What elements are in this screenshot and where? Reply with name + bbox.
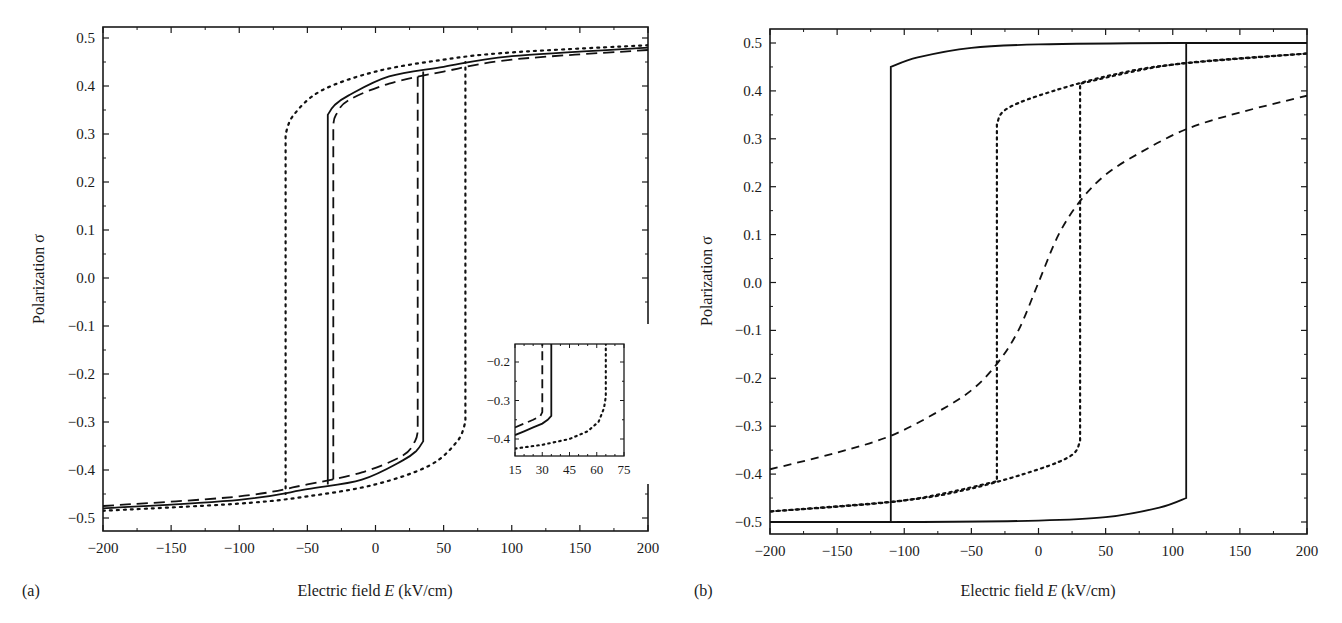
x-tick-label: 0	[1035, 543, 1043, 559]
panel-b-ylabel: Polarization σ	[698, 236, 715, 326]
x-tick-label: −100	[889, 543, 920, 559]
y-tick-label: 0.1	[743, 227, 762, 243]
y-tick-label: 0.5	[76, 30, 95, 46]
x-tick-label: 150	[1229, 543, 1252, 559]
y-tick-label: 0.2	[743, 179, 762, 195]
y-tick-label: 0.3	[743, 131, 762, 147]
y-tick-label: −0.4	[735, 466, 763, 482]
curve-solid	[770, 43, 1307, 522]
x-tick-label: 200	[1296, 543, 1319, 559]
x-tick-label: −50	[960, 543, 983, 559]
inset-x-tick-label: 30	[536, 462, 549, 477]
y-tick-label: 0.4	[743, 83, 762, 99]
x-tick-label: 50	[1098, 543, 1113, 559]
y-tick-label: 0.5	[743, 35, 762, 51]
x-tick-label: 0	[372, 540, 380, 556]
inset-x-tick-label: 75	[618, 462, 631, 477]
x-tick-label: −150	[822, 543, 853, 559]
curve-solid	[770, 43, 1307, 522]
x-tick-label: −200	[88, 540, 119, 556]
y-tick-label: 0.0	[76, 270, 95, 286]
x-tick-label: 100	[501, 540, 524, 556]
curve-dashed	[770, 96, 1307, 470]
inset-x-tick-label: 45	[563, 462, 576, 477]
y-tick-label: −0.5	[68, 510, 95, 526]
x-tick-label: 100	[1162, 543, 1185, 559]
y-tick-label: −0.2	[68, 366, 95, 382]
curve-dotted	[103, 62, 465, 511]
x-tick-label: 150	[569, 540, 592, 556]
y-tick-label: −0.2	[735, 370, 762, 386]
y-tick-label: −0.3	[68, 414, 95, 430]
plot-frame	[770, 29, 1307, 534]
inset-x-tick-label: 15	[509, 462, 522, 477]
y-tick-label: −0.4	[68, 462, 96, 478]
y-tick-label: −0.1	[68, 318, 95, 334]
y-tick-label: −0.1	[735, 322, 762, 338]
y-tick-label: −0.5	[735, 514, 762, 530]
inset-plot: 1530456075−0.2−0.3−0.4	[486, 324, 653, 485]
x-tick-label: 50	[436, 540, 451, 556]
x-tick-label: −150	[156, 540, 187, 556]
panel-a-ylabel: Polarization σ	[30, 234, 47, 324]
panel-b-tag: (b)	[694, 582, 713, 600]
x-tick-label: −200	[755, 543, 786, 559]
inset-y-tick-label: −0.4	[486, 431, 510, 446]
x-tick-label: −100	[224, 540, 255, 556]
inset-y-tick-label: −0.3	[486, 393, 510, 408]
curve-dotted	[770, 54, 1307, 512]
inset-x-tick-label: 60	[590, 462, 603, 477]
y-tick-label: 0.3	[76, 126, 95, 142]
curve-dotted	[770, 54, 1307, 512]
chart-panel-b: −200−150−100−50050100150200−0.5−0.4−0.3−…	[735, 29, 1318, 559]
y-tick-label: 0.0	[743, 275, 762, 291]
panel-a-tag: (a)	[22, 582, 40, 600]
figure: −200−150−100−50050100150200−0.5−0.4−0.3−…	[0, 0, 1342, 623]
curve-solid	[103, 72, 423, 509]
x-tick-label: −50	[296, 540, 319, 556]
panel-a-xlabel: Electric field E (kV/cm)	[297, 582, 452, 600]
y-tick-label: 0.1	[76, 222, 95, 238]
panel-b-xlabel: Electric field E (kV/cm)	[960, 582, 1115, 600]
y-tick-label: 0.2	[76, 174, 95, 190]
chart-panel-a: −200−150−100−50050100150200−0.5−0.4−0.3−…	[68, 27, 659, 556]
curve-dashed	[103, 76, 418, 506]
x-tick-label: 200	[637, 540, 660, 556]
y-tick-label: −0.3	[735, 418, 762, 434]
inset-y-tick-label: −0.2	[486, 354, 510, 369]
y-tick-label: 0.4	[76, 78, 95, 94]
